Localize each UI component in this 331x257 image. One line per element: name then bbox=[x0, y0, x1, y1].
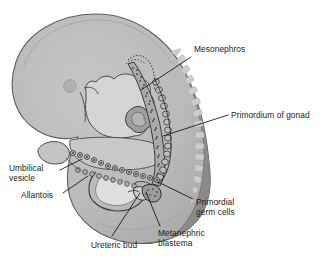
embryo-body-group bbox=[12, 14, 212, 244]
label-ureteric-bud: Ureteric bud bbox=[91, 240, 137, 250]
embryo-diagram-svg bbox=[0, 0, 331, 257]
label-umbilical-vesicle: Umbilical vesicle bbox=[9, 163, 43, 183]
label-mesonephros: Mesonephros bbox=[194, 44, 245, 54]
label-metanephric-blastema: Metanephric blastema bbox=[158, 228, 205, 248]
label-primordium-of-gonad: Primordium of gonad bbox=[231, 110, 310, 120]
embryo-diagram-figure: Mesonephros Primordium of gonad Umbilica… bbox=[0, 0, 331, 257]
otic-vesicle bbox=[64, 80, 77, 93]
umbilical-vesicle bbox=[38, 142, 70, 165]
label-primordial-germ-cells: Primordial germ cells bbox=[196, 197, 235, 217]
label-allantois: Allantois bbox=[21, 190, 53, 200]
